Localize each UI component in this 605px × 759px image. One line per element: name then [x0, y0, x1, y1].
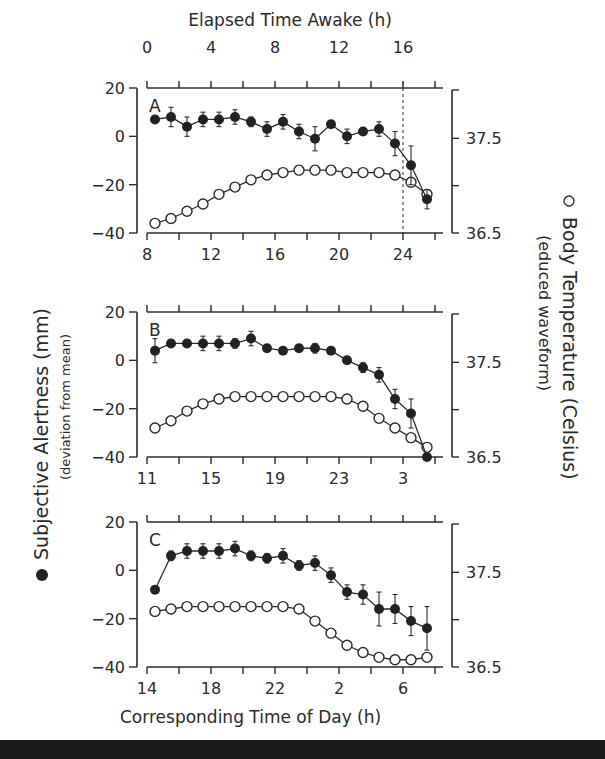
y-tick-label: −20 [91, 176, 125, 195]
figure: Elapsed Time Awake (h)0481216 8121620242… [0, 0, 605, 759]
x-tick-label: 24 [393, 245, 413, 264]
top-tick-label: 16 [393, 38, 413, 57]
y-tick-label: 0 [115, 127, 125, 146]
x-tick-label: 23 [329, 469, 349, 488]
temperature-point [182, 206, 192, 216]
alertness-point [358, 590, 368, 600]
alertness-point [166, 338, 176, 348]
temperature-point [374, 652, 384, 662]
alertness-point [422, 623, 432, 633]
left-axis-title: Subjective Alertness (mm)(deviation from… [30, 308, 73, 581]
y2-tick-label: 37.5 [466, 129, 502, 148]
filled-circle-legend-icon [36, 569, 48, 581]
alertness-point [390, 394, 400, 404]
temperature-point [214, 394, 224, 404]
x-tick-label: 15 [201, 469, 221, 488]
alertness-point [230, 338, 240, 348]
x-tick-label: 18 [201, 679, 221, 698]
temperature-point [214, 602, 224, 612]
alertness-point [262, 553, 272, 563]
temperature-point [278, 602, 288, 612]
temperature-point [390, 655, 400, 665]
temperature-point [182, 602, 192, 612]
alertness-line [155, 117, 427, 199]
temperature-line [155, 607, 427, 660]
temperature-point [278, 392, 288, 402]
y-tick-label: 20 [105, 303, 125, 322]
alertness-point [278, 346, 288, 356]
temperature-point [374, 168, 384, 178]
y-tick-label: −20 [91, 610, 125, 629]
alertness-point [326, 346, 336, 356]
temperature-point [150, 218, 160, 228]
alertness-point [294, 561, 304, 571]
panel-b: 111519233200−20−4037.536.5B [91, 303, 501, 488]
alertness-point [294, 343, 304, 353]
temperature-point [406, 655, 416, 665]
alertness-point [310, 558, 320, 568]
temperature-point [246, 175, 256, 185]
top-tick-label: 4 [206, 38, 216, 57]
alertness-line [155, 549, 427, 629]
left-axis-title-text: Subjective Alertness (mm) [30, 308, 52, 560]
temperature-point [310, 392, 320, 402]
temperature-point [326, 165, 336, 175]
temperature-point [198, 199, 208, 209]
alertness-point [374, 124, 384, 134]
alertness-point [406, 409, 416, 419]
temperature-point [326, 628, 336, 638]
x-tick-label: 12 [201, 245, 221, 264]
alertness-point [214, 338, 224, 348]
top-tick-label: 0 [142, 38, 152, 57]
x-tick-label: 19 [265, 469, 285, 488]
alertness-point [166, 112, 176, 122]
alertness-point [278, 551, 288, 561]
y-tick-label: −20 [91, 400, 125, 419]
alertness-point [310, 343, 320, 353]
alertness-point [214, 546, 224, 556]
y-tick-label: 0 [115, 561, 125, 580]
x-tick-label: 3 [398, 469, 408, 488]
temperature-point [198, 399, 208, 409]
alertness-point [198, 114, 208, 124]
open-circle-legend-icon [564, 196, 574, 206]
x-tick-label: 16 [265, 245, 285, 264]
temperature-point [358, 168, 368, 178]
y-tick-label: 20 [105, 513, 125, 532]
temperature-point [230, 392, 240, 402]
temperature-point [422, 652, 432, 662]
temperature-point [278, 168, 288, 178]
alertness-point [310, 134, 320, 144]
alertness-point [406, 160, 416, 170]
alertness-point [150, 585, 160, 595]
temperature-point [246, 392, 256, 402]
temperature-point [310, 165, 320, 175]
temperature-point [230, 182, 240, 192]
alertness-point [198, 546, 208, 556]
y-tick-label: −40 [91, 658, 125, 677]
temperature-point [342, 640, 352, 650]
alertness-point [262, 124, 272, 134]
alertness-point [166, 551, 176, 561]
alertness-point [214, 114, 224, 124]
temperature-point [406, 433, 416, 443]
temperature-point [342, 168, 352, 178]
alertness-point [230, 112, 240, 122]
right-axis-subtitle: (educed waveform) [535, 235, 554, 391]
alertness-point [278, 117, 288, 127]
temperature-point [262, 170, 272, 180]
y-tick-label: −40 [91, 224, 125, 243]
x-tick-label: 6 [398, 679, 408, 698]
x-tick-label: 2 [334, 679, 344, 698]
bottom-axis-title: Corresponding Time of Day (h) [120, 707, 381, 727]
top-tick-label: 12 [329, 38, 349, 57]
alertness-point [406, 616, 416, 626]
alertness-point [390, 604, 400, 614]
alertness-point [342, 587, 352, 597]
alertness-point [198, 338, 208, 348]
temperature-line [155, 397, 427, 448]
alertness-point [262, 343, 272, 353]
right-axis-title-text: Body Temperature (Celsius) [559, 217, 581, 480]
temperature-point [166, 214, 176, 224]
y-tick-label: −40 [91, 448, 125, 467]
